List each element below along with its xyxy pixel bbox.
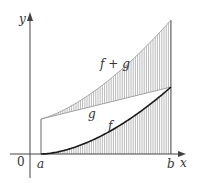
b-label: b — [167, 157, 175, 171]
x-axis-label: x — [180, 156, 187, 170]
f-label: f — [107, 119, 115, 133]
a-label: a — [37, 157, 44, 171]
g-label: g — [88, 107, 96, 121]
y-axis-label: y — [18, 12, 26, 26]
origin-label: 0 — [17, 155, 25, 169]
function-sum-diagram: y x 0 a b f + g g f — [0, 0, 197, 183]
f-plus-g-label: f + g — [99, 57, 130, 71]
y-axis-arrow-icon — [27, 12, 33, 21]
curve-f — [41, 87, 171, 154]
